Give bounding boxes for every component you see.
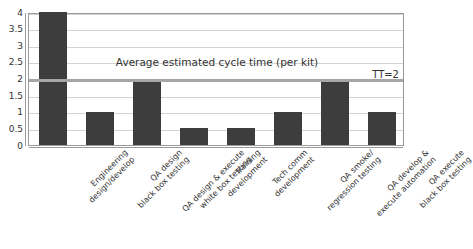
takt-time-line xyxy=(29,79,403,82)
y-axis: 43.532.521.510.50 xyxy=(0,13,26,146)
y-axis-line xyxy=(25,13,26,146)
bar xyxy=(321,79,349,146)
bar xyxy=(86,112,114,145)
y-axis-tick-label: 4 xyxy=(0,9,23,18)
y-axis-tick-label: 3.5 xyxy=(0,25,23,34)
average-cycle-time-note: Average estimated cycle time (per kit) xyxy=(29,57,405,68)
takt-time-label: TT=2 xyxy=(372,70,399,80)
x-axis-category-label: QA designblack box testing xyxy=(129,148,191,210)
bar xyxy=(274,112,302,145)
bar xyxy=(133,79,161,146)
x-axis-category-label: Tech commdevelopment xyxy=(265,148,316,199)
y-axis-tick-label: 1 xyxy=(0,108,23,117)
bar xyxy=(227,128,255,145)
plot-area: TT=2 Average estimated cycle time (per k… xyxy=(28,13,404,146)
bar xyxy=(368,112,396,145)
y-axis-tick-label: 3 xyxy=(0,42,23,51)
y-axis-tick-label: 0.5 xyxy=(0,125,23,134)
y-axis-tick-label: 0 xyxy=(0,142,23,151)
y-axis-tick-label: 2.5 xyxy=(0,58,23,67)
y-axis-tick-label: 2 xyxy=(0,75,23,84)
y-axis-tick-label: 1.5 xyxy=(0,92,23,101)
bar xyxy=(180,128,208,145)
x-axis-category-labels: Engineeringdesign/developQA designblack … xyxy=(28,148,404,249)
